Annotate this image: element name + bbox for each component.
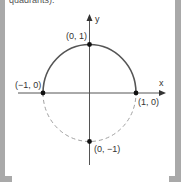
label-left-point: (−1, 0) bbox=[15, 80, 41, 90]
x-axis-label: x bbox=[159, 78, 164, 88]
point-left bbox=[41, 91, 46, 96]
point-bottom bbox=[87, 139, 92, 144]
x-axis-arrow-icon bbox=[159, 90, 166, 96]
label-top-point: (0, 1) bbox=[66, 31, 87, 41]
label-right-point: (1, 0) bbox=[138, 97, 159, 107]
point-top bbox=[87, 42, 92, 47]
point-right bbox=[134, 91, 139, 96]
unit-circle-diagram: y x (0, 1) (−1, 0) (1, 0) (0, −1) bbox=[0, 0, 182, 183]
y-axis-label: y bbox=[95, 14, 100, 24]
y-axis-arrow-icon bbox=[87, 14, 93, 21]
label-bottom-point: (0, −1) bbox=[94, 144, 120, 154]
